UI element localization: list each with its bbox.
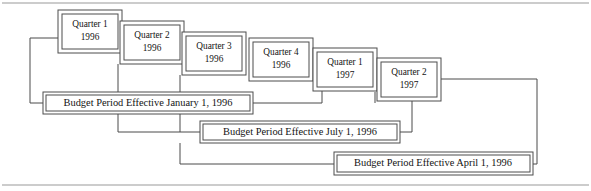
connector-april-left [180,143,334,164]
connector-january-right [253,81,322,103]
quarter-label-line2: 1997 [400,80,419,90]
quarter-label-line2: 1997 [336,70,355,80]
quarter-label-line1: Quarter 4 [263,47,299,57]
quarter-label-line2: 1996 [205,54,224,64]
diagram-canvas: Quarter 1 1996 Quarter 2 1996 Quarter 3 … [0,0,591,191]
connector-july-left [118,114,200,132]
connector-q2-1997-to-april [441,79,537,164]
quarter-label-line2: 1996 [272,60,291,70]
quarter-label-line2: 1996 [143,43,162,53]
period-box-july[interactable]: Budget Period Effective July 1, 1996 [200,121,400,143]
quarter-box-q2-1997[interactable]: Quarter 2 1997 [377,58,441,101]
quarter-label-line1: Quarter 3 [196,41,232,51]
quarter-box-q1-1996[interactable]: Quarter 1 1996 [58,10,122,53]
period-label-april: Budget Period Effective April 1, 1996 [354,157,512,168]
quarter-label-line1: Quarter 2 [134,30,170,40]
quarter-box-q3-1996[interactable]: Quarter 3 1996 [182,32,246,75]
period-box-april[interactable]: Budget Period Effective April 1, 1996 [334,152,533,175]
quarter-label-line1: Quarter 1 [72,19,108,29]
budget-period-diagram: Quarter 1 1996 Quarter 2 1996 Quarter 3 … [0,0,591,191]
quarter-label-line1: Quarter 1 [327,57,363,67]
period-label-january: Budget Period Effective January 1, 1996 [64,97,233,108]
period-box-january[interactable]: Budget Period Effective January 1, 1996 [43,92,253,114]
period-label-july: Budget Period Effective July 1, 1996 [223,126,377,137]
quarter-box-q2-1996[interactable]: Quarter 2 1996 [120,21,184,64]
quarter-label-line1: Quarter 2 [391,67,427,77]
quarter-label-line2: 1996 [81,32,100,42]
quarter-box-q1-1997[interactable]: Quarter 1 1997 [313,48,377,91]
quarter-box-q4-1996[interactable]: Quarter 4 1996 [249,38,313,81]
connector-july-right [400,101,412,132]
